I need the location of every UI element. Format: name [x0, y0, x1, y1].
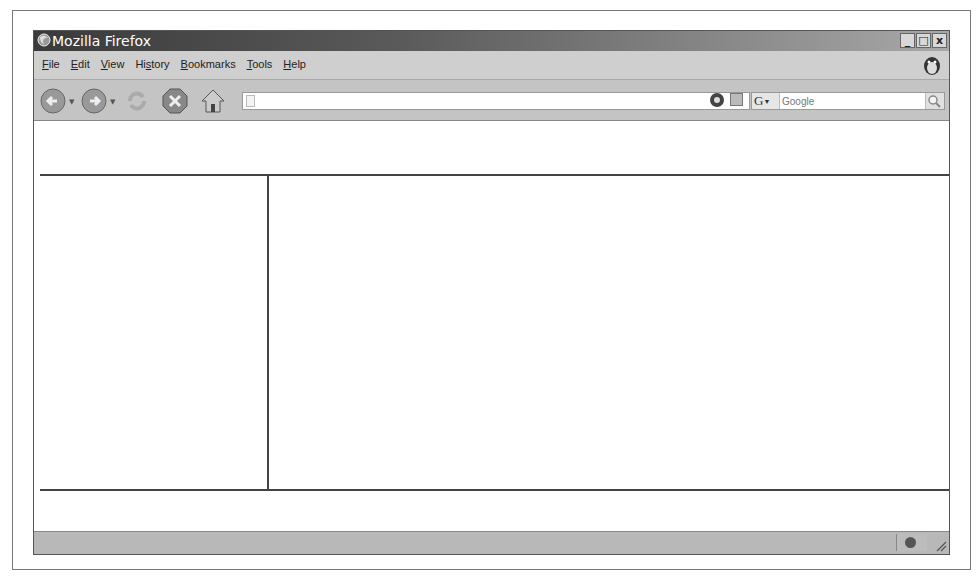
close-button[interactable]: x — [932, 33, 947, 48]
browser-window: Mozilla Firefox _ □ x File Edit View His… — [33, 30, 950, 555]
status-bar — [34, 531, 949, 554]
menu-view[interactable]: View — [101, 58, 125, 70]
url-bar[interactable] — [242, 92, 750, 110]
resize-grip-icon[interactable] — [933, 538, 947, 552]
back-history-dropdown[interactable]: ▼ — [69, 98, 74, 106]
bottom-frame — [34, 491, 949, 534]
forward-history-dropdown[interactable]: ▼ — [110, 98, 115, 106]
menu-tools[interactable]: Tools — [247, 58, 273, 70]
left-frame — [40, 176, 267, 489]
top-frame — [34, 121, 949, 174]
minimize-button[interactable]: _ — [900, 33, 915, 48]
stop-button[interactable] — [162, 88, 188, 114]
menu-edit[interactable]: Edit — [71, 58, 90, 70]
security-status-icon[interactable] — [905, 537, 916, 548]
window-title: Mozilla Firefox — [52, 32, 151, 50]
menu-file[interactable]: File — [42, 58, 60, 70]
menu-bookmarks[interactable]: Bookmarks — [181, 58, 236, 70]
menu-bar: File Edit View History Bookmarks Tools H… — [34, 51, 949, 80]
search-box: G▼ — [751, 92, 945, 110]
status-panel — [896, 534, 927, 551]
menu-help[interactable]: Help — [283, 58, 306, 70]
title-bar[interactable]: Mozilla Firefox _ □ x — [34, 31, 949, 51]
forward-button[interactable] — [81, 88, 107, 114]
search-button[interactable] — [925, 93, 944, 109]
reload-button[interactable] — [124, 88, 150, 114]
page-content — [34, 121, 949, 534]
page-icon — [246, 95, 255, 107]
magnifier-icon — [926, 94, 942, 108]
back-button[interactable] — [40, 88, 66, 114]
home-button[interactable] — [200, 88, 226, 114]
navigation-toolbar: ▼ ▼ G▼ — [34, 80, 949, 121]
go-button[interactable] — [710, 93, 724, 107]
throbber-icon — [921, 54, 943, 76]
search-input[interactable] — [782, 93, 912, 109]
menu-history[interactable]: History — [135, 58, 169, 70]
main-frame — [269, 176, 949, 489]
search-engine-dropdown[interactable]: G▼ — [752, 93, 780, 109]
maximize-button[interactable]: □ — [916, 33, 931, 48]
chevron-down-icon: ▼ — [763, 98, 770, 106]
firefox-logo-icon — [37, 33, 51, 47]
feed-button[interactable] — [730, 93, 743, 106]
